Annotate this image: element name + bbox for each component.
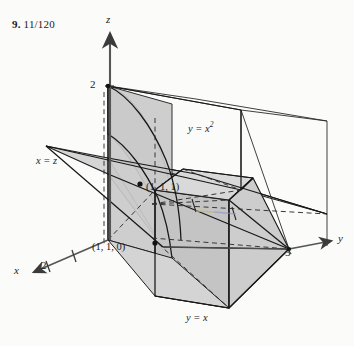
point-label-1-1-1: (1, 1, 1): [146, 181, 179, 192]
answer-number: 9.: [12, 18, 21, 30]
point-1-1-1-dot: [137, 181, 142, 186]
z-axis-label: z: [106, 13, 110, 25]
label-parabolic-cylinder-exponent: 2: [210, 120, 214, 129]
answer-label: 9. 11/120: [12, 18, 55, 30]
z-tick-2-label: 2: [90, 78, 96, 90]
point-1-1-0-dot: [152, 240, 157, 245]
solid-region-diagram: [0, 0, 354, 346]
figure-canvas: 9. 11/120 z y x 2 3 2 y = x2 x = z y = x…: [0, 0, 354, 346]
label-plane-y-equals-x: y = x: [186, 312, 208, 323]
label-parabolic-cylinder: y = x2: [188, 120, 213, 134]
y-axis-label: y: [338, 232, 343, 244]
answer-value: 11/120: [24, 18, 55, 30]
right-wedge-face: [229, 178, 289, 308]
point-label-1-1-0: (1, 1, 0): [92, 241, 125, 252]
x-tick-2-label: 2: [41, 259, 47, 271]
x-axis-label: x: [14, 264, 19, 276]
label-parabolic-cylinder-text: y = x: [188, 123, 210, 134]
label-plane-x-equals-z: x = z: [36, 155, 57, 166]
y-axis: [289, 241, 331, 249]
point-z-2-dot: [106, 84, 111, 89]
y-tick-3-label: 3: [285, 246, 291, 258]
